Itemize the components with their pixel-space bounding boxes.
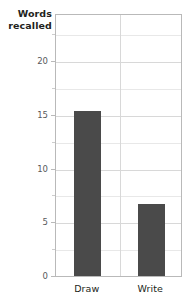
gridline-minor <box>56 35 181 36</box>
y-tick-label: 20 <box>8 57 48 66</box>
y-axis-title-line-1: Words <box>0 8 52 20</box>
y-tick-label: 15 <box>8 111 48 120</box>
gridline-minor <box>56 89 181 90</box>
y-axis-title-line-2: recalled <box>0 20 52 32</box>
y-tick-label: 0 <box>8 272 48 281</box>
y-tick-label: 10 <box>8 165 48 174</box>
y-tick-label: 5 <box>8 218 48 227</box>
plot-area <box>55 14 182 277</box>
bar-chart-figure: Words recalled 05101520 DrawWrite <box>0 0 191 303</box>
gridline-major <box>56 62 181 63</box>
y-axis-title: Words recalled <box>0 8 52 31</box>
x-category-label-draw: Draw <box>55 283 119 294</box>
x-category-label-write: Write <box>119 283 183 294</box>
bar-write <box>138 204 165 276</box>
bar-draw <box>74 111 101 276</box>
category-divider <box>120 15 121 276</box>
